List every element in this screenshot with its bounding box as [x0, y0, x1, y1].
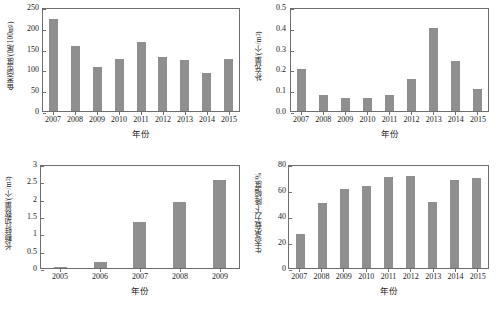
bar-cell: [400, 9, 422, 111]
y-tick-label: 1.5: [27, 213, 37, 221]
x-tick-label: 2013: [423, 116, 445, 124]
bar: [472, 178, 481, 268]
x-tick-label: 2014: [444, 273, 466, 281]
bar: [224, 59, 233, 111]
bar-cell: [130, 9, 152, 111]
plot-area: [290, 8, 489, 112]
x-tick-label: 2010: [355, 273, 377, 281]
bar: [202, 73, 211, 111]
bar-cell: [291, 9, 313, 111]
bar: [451, 61, 460, 111]
y-tick-label: 0: [33, 265, 37, 273]
x-tick-label: 2011: [377, 273, 399, 281]
y-tick-mark: [41, 183, 44, 184]
bar-series: [291, 9, 488, 111]
bar: [158, 57, 167, 111]
bar-cell: [43, 9, 65, 111]
figure-grid: 鱼类密度/(尾/100m2) 050100150200250 200720082…: [0, 0, 501, 314]
bar: [318, 203, 327, 268]
y-tick-mark: [41, 253, 44, 254]
bar: [137, 42, 146, 111]
bar: [49, 19, 58, 111]
bar: [341, 98, 350, 111]
y-tick-mark: [291, 9, 294, 10]
y-axis-tick-labels: 050100150200250: [17, 0, 41, 112]
chart-panel-recruitment: 补充量/(个/m2) 0.00.10.20.30.40.5 2007200820…: [250, 0, 501, 157]
bar: [296, 234, 305, 268]
y-tick-label: 250: [27, 4, 39, 12]
x-tick-label: 2008: [64, 116, 86, 124]
bar: [406, 176, 415, 268]
bar-cell: [152, 9, 174, 111]
x-tick-label: 2009: [334, 116, 356, 124]
y-tick-label: 0: [35, 108, 39, 116]
x-axis-title: 年份: [40, 287, 240, 296]
x-tick-label: 2013: [174, 116, 196, 124]
bar-cell: [466, 166, 488, 268]
x-tick-label: 2007: [288, 273, 310, 281]
y-tick-mark: [43, 92, 46, 93]
y-tick-label: 2: [33, 196, 37, 204]
y-tick-label: 60: [278, 187, 286, 195]
bar-cell: [400, 166, 422, 268]
bar-cell: [87, 9, 109, 111]
y-axis-tick-labels: 0.00.10.20.30.40.5: [264, 0, 288, 112]
x-tick-label: 2010: [356, 116, 378, 124]
y-tick-label: 200: [27, 25, 39, 33]
x-tick-label: 2007: [120, 273, 160, 281]
bar: [297, 69, 306, 111]
bar-cell: [313, 9, 335, 111]
bar: [384, 177, 393, 268]
y-tick-mark: [43, 71, 46, 72]
x-tick-label: 2014: [196, 116, 218, 124]
y-tick-mark: [43, 30, 46, 31]
bar-cell: [217, 9, 239, 111]
x-tick-label: 2008: [310, 273, 332, 281]
x-tick-label: 2014: [445, 116, 467, 124]
bar: [473, 89, 482, 111]
x-axis-tick-labels: 200720082009201020112012201320142015: [288, 273, 489, 281]
bar-cell: [377, 166, 399, 268]
bar-series: [43, 9, 239, 111]
x-tick-label: 2007: [290, 116, 312, 124]
bar: [213, 180, 226, 268]
y-tick-label: 100: [27, 66, 39, 74]
chart-panel-fish-density: 鱼类密度/(尾/100m2) 050100150200250 200720082…: [0, 0, 250, 157]
x-tick-label: 2015: [218, 116, 240, 124]
bar: [180, 60, 189, 111]
bar: [340, 189, 349, 268]
y-axis-tick-labels: 00.511.522.53: [15, 157, 39, 269]
bar: [429, 28, 438, 111]
y-tick-label: 0.5: [276, 4, 286, 12]
x-axis-title: 年份: [42, 130, 240, 139]
bar: [115, 59, 124, 111]
y-tick-label: 40: [278, 213, 286, 221]
bar-cell: [466, 9, 488, 111]
x-tick-label: 2010: [108, 116, 130, 124]
y-axis-title: 鱼类密度/(尾/100m2): [4, 0, 18, 112]
bar-series: [41, 166, 239, 268]
bar-cell: [335, 9, 357, 111]
x-tick-label: 2013: [422, 273, 444, 281]
bar-cell: [199, 166, 239, 268]
y-tick-label: 0.2: [276, 66, 286, 74]
x-axis-title: 年份: [288, 287, 489, 296]
y-axis-tick-labels: 020406080: [264, 157, 288, 269]
x-tick-label: 2015: [467, 116, 489, 124]
y-tick-mark: [41, 166, 44, 167]
y-tick-mark: [291, 51, 294, 52]
x-tick-label: 2008: [160, 273, 200, 281]
y-tick-label: 0.5: [27, 248, 37, 256]
y-tick-label: 1: [33, 230, 37, 238]
bar-cell: [422, 9, 444, 111]
bar: [319, 95, 328, 111]
bar-cell: [81, 166, 121, 268]
bar-cell: [379, 9, 401, 111]
x-tick-label: 2006: [80, 273, 120, 281]
y-tick-mark: [289, 218, 292, 219]
x-tick-label: 2012: [401, 116, 423, 124]
bar: [450, 180, 459, 268]
y-tick-label: 150: [27, 46, 39, 54]
y-tick-label: 0.4: [276, 25, 286, 33]
bar-cell: [333, 166, 355, 268]
